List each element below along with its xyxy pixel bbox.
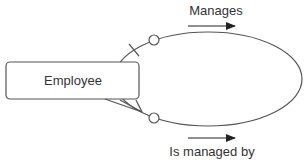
relationship-label-is-managed-by: Is managed by bbox=[169, 144, 255, 159]
cardinality-crows-foot bbox=[105, 99, 142, 112]
entity-employee[interactable]: Employee bbox=[6, 62, 139, 99]
relationship-label-manages: Manages bbox=[189, 3, 243, 18]
cardinality-one-bar bbox=[129, 44, 139, 56]
entity-label: Employee bbox=[44, 73, 102, 88]
er-diagram: Employee Manages Is managed by bbox=[0, 0, 306, 162]
cardinality-zero-circle-top bbox=[149, 35, 159, 45]
cardinality-zero-circle-bottom bbox=[149, 113, 159, 123]
